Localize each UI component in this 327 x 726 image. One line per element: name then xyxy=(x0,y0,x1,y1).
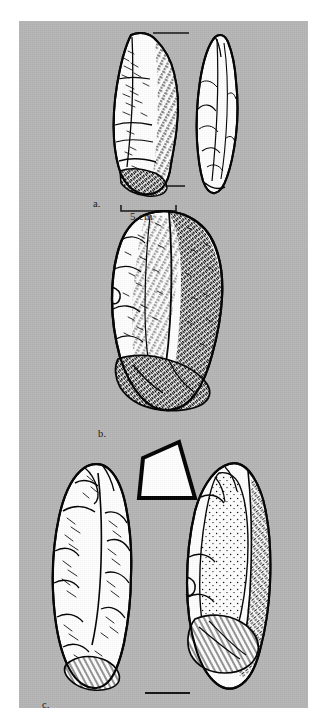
specimen-a-lateral-view xyxy=(197,35,238,193)
specimen-b-view xyxy=(112,211,222,410)
specimen-a-dorsal-view xyxy=(114,33,179,196)
figure-plate: a. b. c. 5 cm xyxy=(19,21,308,708)
caption-b: b. xyxy=(98,429,106,440)
caption-c: c. xyxy=(42,700,50,708)
specimen-c-ventral-view xyxy=(186,463,271,688)
specimen-c-dorsal-view xyxy=(53,464,132,690)
cross-section-triangle xyxy=(139,442,195,498)
figure-artwork xyxy=(19,21,308,708)
scale-bar-label: 5 cm xyxy=(130,210,153,222)
caption-a: a. xyxy=(93,199,101,210)
